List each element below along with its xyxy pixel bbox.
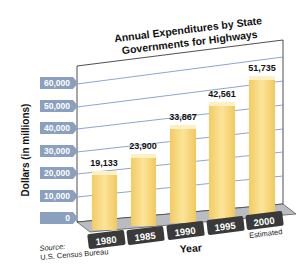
value-label-1980: 19,133	[90, 158, 118, 168]
ytick-30000: 30,000	[40, 145, 78, 157]
value-label-1995: 42,561	[208, 89, 236, 99]
svg-text:20,000: 20,000	[44, 168, 70, 178]
ytick-50000: 50,000	[40, 100, 78, 112]
svg-text:10,000: 10,000	[44, 191, 70, 201]
chart: Annual Expenditures by State Governments…	[0, 0, 304, 269]
y-axis-label: Dollars (in millions)	[20, 104, 31, 197]
xtick-1985: 1985	[126, 226, 165, 245]
ytick-60000: 60,000	[40, 77, 78, 89]
x-axis-label: Year	[179, 241, 202, 255]
svg-text:60,000: 60,000	[44, 78, 70, 88]
ytick-0: 0	[40, 212, 78, 224]
y-axis-ticks: 60,000 50,000 40,000 30,000 20,000 10,00…	[40, 77, 78, 224]
bar-1990: 33,867	[169, 112, 197, 223]
svg-text:50,000: 50,000	[44, 101, 70, 111]
svg-text:30,000: 30,000	[44, 146, 70, 156]
svg-text:40,000: 40,000	[44, 123, 70, 133]
svg-text:0: 0	[65, 213, 70, 223]
ytick-10000: 10,000	[40, 190, 78, 202]
bar-2000: 51,735	[248, 63, 276, 215]
ytick-40000: 40,000	[40, 122, 78, 134]
ytick-20000: 20,000	[40, 167, 78, 179]
value-label-1985: 23,900	[129, 141, 157, 151]
value-label-2000: 51,735	[248, 63, 276, 73]
bar-1995: 42,561	[208, 89, 236, 219]
value-label-1990: 33,867	[169, 112, 197, 122]
